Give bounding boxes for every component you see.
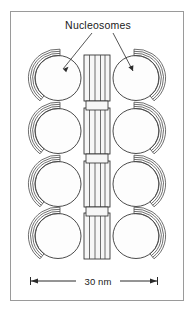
nucleosomes-label: Nucleosomes [65,19,131,31]
linker-dna-segment [84,161,110,207]
nucleosome-tier-1 [28,49,165,101]
linker-dna-segment [84,213,110,259]
chromatin-fiber-figure: Nucleosomes 30 nm [0,0,196,313]
diagram-canvas: Nucleosomes 30 nm [0,0,196,313]
scale-bar-label: 30 nm [85,276,112,287]
linker-dna-segment [84,108,110,154]
linker-dna-segment [84,55,110,101]
